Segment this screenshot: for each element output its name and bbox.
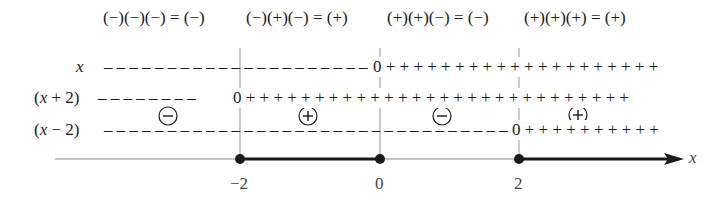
sign-row-x: – – – – – – – – – – – – – – – – – – – – … bbox=[104, 57, 406, 77]
row-label-x-plus-2: (x + 2) bbox=[34, 88, 79, 108]
interval-header-2: (−)(+)(−) = (+) bbox=[246, 8, 348, 28]
axis-label-x: x bbox=[689, 148, 697, 168]
sign-row-x-minus-2-pos: 0 + + + + + + + + + + bbox=[510, 120, 661, 140]
closed-dot-0 bbox=[375, 154, 385, 164]
sign-row-x-plus-2-neg: – – – – – – – – bbox=[98, 88, 196, 108]
tick-label-2: 2 bbox=[514, 174, 523, 194]
tick-label-0: 0 bbox=[375, 174, 384, 194]
interval-header-3: (+)(+)(−) = (−) bbox=[387, 8, 489, 28]
row-label-x-minus-2: (x − 2) bbox=[34, 120, 79, 140]
tick-label-neg2: −2 bbox=[230, 174, 248, 194]
interval-header-1: (−)(−)(−) = (−) bbox=[103, 8, 205, 28]
sign-row-x-minus-2-neg: – – – – – – – – – – – – – – – – – – – – … bbox=[104, 120, 572, 140]
closed-dot-2 bbox=[514, 154, 524, 164]
interval-header-4: (+)(+)(+) = (+) bbox=[524, 8, 626, 28]
closed-dot-neg2 bbox=[235, 154, 245, 164]
negative-run: – – – – – – – – – – – – – – – – – – – – … bbox=[104, 57, 406, 76]
sign-row-x-pos: 0 + + + + + + + + + + + + + + + + + + + … bbox=[371, 57, 660, 77]
sign-row-x-plus-2-pos: 0 + + + + + + + + + + + + + + + + + + + … bbox=[231, 88, 631, 108]
row-label-x: x bbox=[76, 57, 84, 77]
